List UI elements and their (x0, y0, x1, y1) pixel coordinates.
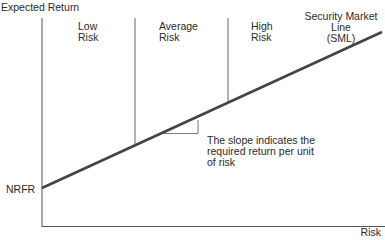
region-low-risk: Low Risk (78, 21, 98, 43)
region-high-risk: High Risk (251, 21, 273, 43)
x-axis-label: Risk (361, 227, 381, 238)
slope-annotation: The slope indicates the required return … (207, 135, 315, 168)
region-label-line: Risk (251, 32, 273, 43)
sml-label-line: (SML) (299, 33, 383, 44)
region-label-line: Risk (78, 32, 98, 43)
nrfr-label: NRFR (6, 184, 35, 195)
y-axis-label: Expected Return (1, 2, 79, 13)
region-average-risk: Average Risk (159, 21, 198, 43)
annotation-line: of risk (207, 157, 315, 168)
sml-label: Security Market Line (SML) (299, 11, 383, 44)
region-label-line: Risk (159, 32, 198, 43)
